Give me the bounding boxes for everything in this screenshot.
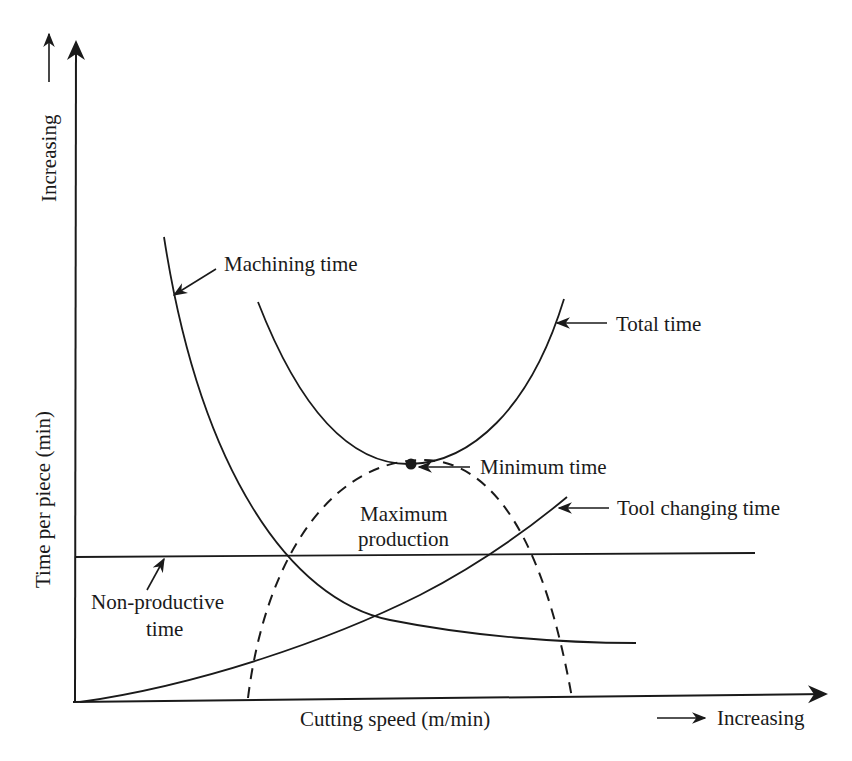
non-productive-time-label-line1: Non-productive <box>91 590 224 614</box>
y-axis-title: Time per piece (min) <box>31 411 55 588</box>
annotation-non-productive-time: Non-productive time <box>91 559 224 641</box>
maximum-production-label-line2: production <box>358 527 449 551</box>
y-increasing-label: Increasing <box>37 114 61 202</box>
x-increasing-label: Increasing <box>717 706 805 730</box>
x-axis-title: Cutting speed (m/min) <box>300 707 490 731</box>
total-time-label: Total time <box>616 312 701 336</box>
non-productive-time-line <box>75 553 755 557</box>
cutting-speed-time-chart: Increasing Time per piece (min) Cutting … <box>0 0 852 761</box>
tool-changing-time-label: Tool changing time <box>617 496 780 520</box>
annotation-tool-changing-time: Tool changing time <box>559 496 780 520</box>
non-productive-time-label-line2: time <box>146 617 183 641</box>
y-direction-indicator: Increasing <box>37 34 61 202</box>
maximum-production-curve <box>248 460 572 698</box>
maximum-production-label-line1: Maximum <box>360 502 448 526</box>
machining-time-label: Machining time <box>224 252 358 276</box>
x-direction-indicator: Increasing <box>657 706 805 730</box>
annotation-minimum-time: Minimum time <box>419 455 607 479</box>
machining-time-curve <box>164 237 636 643</box>
total-time-curve <box>258 299 564 464</box>
y-axis <box>75 42 76 702</box>
minimum-time-label: Minimum time <box>480 455 607 479</box>
machining-time-pointer-icon <box>174 269 216 295</box>
annotation-maximum-production: Maximum production <box>358 502 449 551</box>
annotation-total-time: Total time <box>557 312 701 336</box>
non-productive-time-pointer-icon <box>147 559 164 590</box>
annotation-machining-time: Machining time <box>174 252 358 295</box>
x-axis <box>73 694 826 702</box>
